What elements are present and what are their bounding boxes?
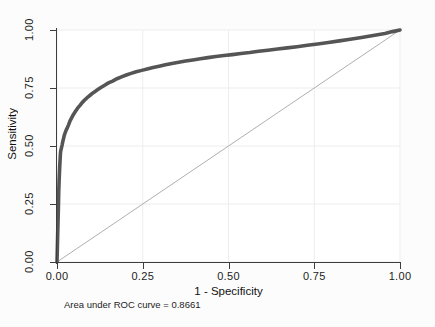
x-tick-mark: [57, 263, 58, 269]
x-tick-mark: [229, 263, 230, 269]
x-tick-mark: [314, 263, 315, 269]
y-tick-mark: [50, 204, 56, 205]
y-tick-mark: [50, 30, 56, 31]
y-tick-label: 0.25: [22, 180, 36, 228]
y-axis-title: Sensitivity: [6, 108, 18, 160]
y-tick-mark: [50, 146, 56, 147]
auc-annotation: Area under ROC curve = 0.8661: [64, 299, 201, 310]
y-tick-mark: [50, 88, 56, 89]
y-tick-label: 0.50: [22, 122, 36, 170]
x-tick-label: 0.50: [206, 270, 252, 282]
x-tick-label: 0.00: [34, 270, 80, 282]
y-tick-label: 1.00: [22, 6, 36, 54]
roc-chart: 0.000.250.500.751.00 0.000.250.500.751.0…: [0, 0, 435, 327]
x-tick-label: 1.00: [377, 270, 423, 282]
y-axis-line: [56, 28, 57, 264]
x-tick-label: 0.75: [291, 270, 337, 282]
x-tick-mark: [143, 263, 144, 269]
x-axis-title: 1 - Specificity: [57, 285, 400, 297]
x-tick-mark: [400, 263, 401, 269]
x-tick-label: 0.25: [120, 270, 166, 282]
y-tick-label: 0.75: [22, 64, 36, 112]
y-tick-mark: [50, 262, 56, 263]
